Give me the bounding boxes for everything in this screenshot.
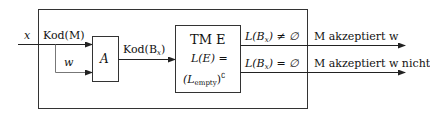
cond2-base: L(B: [245, 57, 265, 70]
kod-bx-base: Kod(B: [123, 43, 157, 56]
tm-e-title: TM E: [190, 34, 226, 46]
cond1-rest: ) ≠ ∅: [269, 30, 300, 43]
tm-e-line3-sub: empty: [195, 79, 217, 87]
cond1-base: L(B: [245, 30, 265, 43]
cond2-rest: ) = ∅: [269, 57, 300, 70]
input-label-x: x: [24, 30, 30, 42]
tm-e-line3: (Lempty)∁: [183, 70, 225, 89]
edge-label-kod-m: Kod(M): [43, 30, 84, 42]
block-a-label: A: [100, 53, 109, 65]
edge-label-w: w: [64, 57, 73, 69]
kod-bx-close: ): [161, 43, 165, 56]
output-result-rejects: M akzeptiert w nicht: [314, 58, 430, 70]
tm-e-line3-base: (L: [183, 73, 195, 86]
output-condition-empty: L(Bx) = ∅: [245, 58, 299, 73]
tm-e-line3-sup: ∁: [221, 72, 225, 80]
edge-label-kod-bx: Kod(Bx): [123, 44, 165, 59]
output-condition-nonempty: L(Bx) ≠ ∅: [245, 31, 299, 46]
input-arrow-w: [56, 45, 93, 73]
output-result-accepts: M akzeptiert w: [314, 31, 398, 43]
tm-e-line2: L(E) =: [191, 53, 228, 65]
